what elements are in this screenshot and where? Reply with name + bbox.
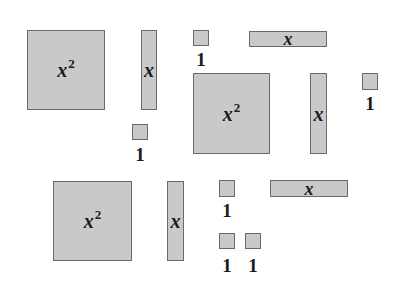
unit-tile <box>219 180 235 197</box>
unit-label: 1 <box>362 94 378 113</box>
x-tile-horizontal: x <box>249 31 327 47</box>
unit-tile <box>362 73 378 90</box>
x-label: x <box>144 60 154 80</box>
x-squared-tile: x2 <box>193 73 270 154</box>
unit-label: 1 <box>219 256 235 275</box>
unit-tile <box>245 233 261 249</box>
x-tile-vertical: x <box>310 73 327 154</box>
unit-label: 1 <box>132 145 148 164</box>
unit-tile <box>193 30 209 46</box>
x-squared-label: x2 <box>84 211 102 231</box>
x-tile-vertical: x <box>167 181 184 261</box>
unit-label: 1 <box>219 201 235 220</box>
x-label: x <box>314 104 324 124</box>
x-tile-vertical: x <box>141 30 157 110</box>
x-squared-label: x2 <box>57 60 75 80</box>
unit-tile <box>219 233 235 249</box>
x-squared-label: x2 <box>223 104 241 124</box>
x-squared-tile: x2 <box>53 181 132 261</box>
unit-label: 1 <box>245 256 261 275</box>
x-squared-tile: x2 <box>27 30 105 110</box>
x-label: x <box>284 30 293 48</box>
unit-label: 1 <box>193 50 209 69</box>
x-label: x <box>171 211 181 231</box>
x-tile-horizontal: x <box>270 180 348 197</box>
unit-tile <box>132 124 148 140</box>
x-label: x <box>305 180 314 198</box>
